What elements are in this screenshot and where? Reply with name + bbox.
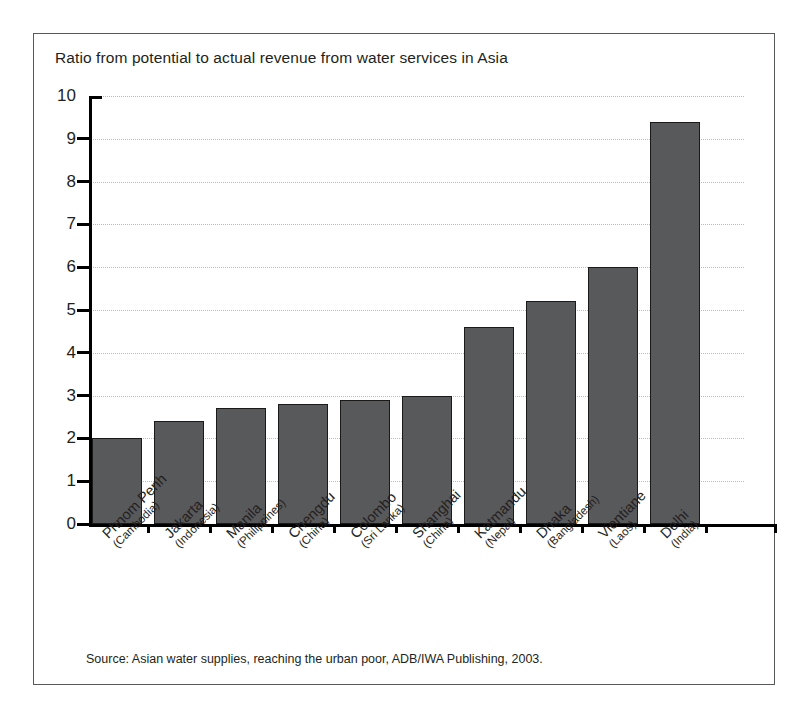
y-axis-label: 9 [67, 129, 76, 149]
y-axis-label: 4 [67, 343, 76, 363]
y-axis-label: 3 [67, 386, 76, 406]
y-axis-tick [89, 96, 102, 99]
y-axis-label: 0 [67, 514, 76, 534]
gridline [89, 139, 744, 140]
bar [650, 122, 700, 524]
gridline [89, 182, 744, 183]
source-note: Source: Asian water supplies, reaching t… [86, 652, 543, 666]
figure-frame: Ratio from potential to actual revenue f… [33, 33, 775, 685]
y-axis-tick [77, 137, 92, 140]
y-axis-tick [77, 351, 92, 354]
gridline [89, 267, 744, 268]
y-axis-tick [77, 266, 92, 269]
y-axis-tick [77, 309, 92, 312]
y-axis-tick [77, 437, 92, 440]
y-axis-label: 6 [67, 257, 76, 277]
gridline [89, 224, 744, 225]
y-axis-label: 10 [57, 86, 76, 106]
gridline [89, 310, 744, 311]
y-axis-label: 1 [67, 471, 76, 491]
y-axis-label: 8 [67, 172, 76, 192]
chart-title: Ratio from potential to actual revenue f… [55, 49, 508, 67]
bar [588, 267, 638, 524]
y-axis-tick [77, 523, 92, 526]
y-axis-tick [77, 480, 92, 483]
bar [526, 301, 576, 524]
y-axis-label: 2 [67, 428, 76, 448]
gridline [89, 353, 744, 354]
y-axis-label: 5 [67, 300, 76, 320]
y-axis-tick [77, 223, 92, 226]
x-axis-labels: Phnom Penh(Cambodia)Jakarta(Indonesia)Ma… [89, 530, 769, 650]
y-axis-tick [77, 394, 92, 397]
y-axis-label: 7 [67, 214, 76, 234]
y-axis-tick [77, 180, 92, 183]
plot-area: 012345678910 [89, 96, 744, 524]
x-axis-endcap [774, 524, 777, 533]
gridline [89, 96, 744, 97]
